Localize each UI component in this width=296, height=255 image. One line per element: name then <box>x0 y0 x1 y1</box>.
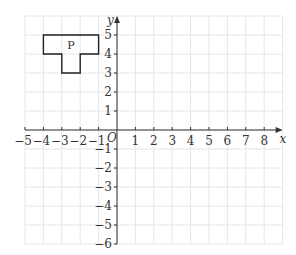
x-tick-label: −5 <box>14 134 32 148</box>
y-axis-arrow-icon <box>114 16 120 23</box>
x-tick-label: 4 <box>187 134 195 148</box>
origin-label: O <box>107 131 117 145</box>
x-axis-label: x <box>280 132 287 146</box>
x-tick-label: 8 <box>260 134 268 148</box>
y-tick-label: 4 <box>104 47 112 61</box>
y-tick-label: 1 <box>104 104 112 118</box>
x-tick-label: 6 <box>224 134 232 148</box>
coordinate-grid: −5−4−3−2−112345678−6−5−4−3−2−112345xyO P <box>0 0 296 255</box>
x-tick-label: −3 <box>51 134 69 148</box>
y-axis-label: y <box>106 13 114 27</box>
x-tick-label: 7 <box>242 134 250 148</box>
y-tick-label: 3 <box>104 66 112 80</box>
x-tick-label: 2 <box>150 134 158 148</box>
shape-label: P <box>67 39 75 52</box>
y-tick-label: −6 <box>94 237 112 251</box>
x-tick-label: 5 <box>205 134 213 148</box>
x-tick-label: −4 <box>33 134 51 148</box>
x-tick-label: 1 <box>132 134 140 148</box>
y-tick-label: 2 <box>104 85 112 99</box>
x-tick-label: −2 <box>69 134 87 148</box>
y-tick-label: −2 <box>94 161 112 175</box>
y-tick-label: −5 <box>94 218 112 232</box>
x-tick-label: 3 <box>168 134 176 148</box>
y-tick-label: −4 <box>94 199 112 213</box>
y-tick-label: 5 <box>104 28 112 42</box>
y-tick-label: −3 <box>94 180 112 194</box>
